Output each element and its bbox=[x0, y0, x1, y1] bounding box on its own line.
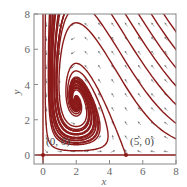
trajectory bbox=[136, 166, 137, 172]
label-origin: (0, 0) bbox=[46, 135, 70, 148]
trajectory bbox=[52, 0, 181, 138]
trajectory bbox=[110, 0, 181, 21]
y-tick-label: 2 bbox=[25, 114, 31, 126]
y-ticks: 02468 bbox=[25, 8, 39, 161]
equilibrium-origin bbox=[41, 153, 45, 157]
x-ticks: 02468 bbox=[40, 160, 179, 177]
x-tick-label: 0 bbox=[40, 165, 46, 177]
x-axis-label: x bbox=[101, 175, 107, 187]
label-5-0: (5, 0) bbox=[130, 135, 154, 148]
x-tick-label: 4 bbox=[107, 165, 113, 177]
phase-portrait: 02468 02468 x y (0, 0) (5, 0) bbox=[0, 0, 187, 187]
y-tick-label: 4 bbox=[25, 79, 31, 91]
x-tick-label: 6 bbox=[140, 165, 146, 177]
equilibrium-spiral bbox=[72, 98, 80, 106]
equilibrium-5-0 bbox=[124, 153, 128, 157]
x-tick-label: 2 bbox=[74, 165, 80, 177]
y-tick-label: 0 bbox=[25, 149, 31, 161]
x-tick-label: 8 bbox=[173, 165, 179, 177]
trajectory bbox=[105, 0, 170, 9]
y-tick-label: 8 bbox=[25, 8, 31, 20]
y-axis-label: y bbox=[10, 89, 22, 95]
y-tick-label: 6 bbox=[25, 43, 31, 55]
